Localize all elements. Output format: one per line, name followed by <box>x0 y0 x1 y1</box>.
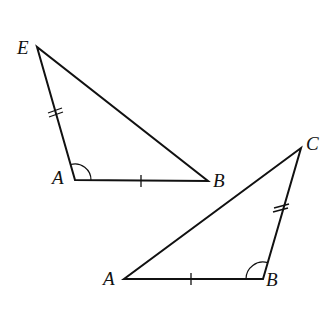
triangle-abc-outline <box>124 148 301 279</box>
triangle-eab <box>37 47 208 181</box>
vertex-label-a-bottom: A <box>103 269 115 288</box>
triangle-abc <box>124 148 301 279</box>
diagram-canvas: E A B C A B <box>0 0 332 314</box>
triangles-figure <box>0 0 332 314</box>
vertex-label-e: E <box>17 38 29 57</box>
double-tick-mark-bc <box>273 204 289 212</box>
vertex-label-b-top: B <box>213 171 225 190</box>
vertex-label-b-bottom: B <box>266 270 278 289</box>
vertex-label-a-top: A <box>52 168 64 187</box>
vertex-label-c: C <box>306 134 319 153</box>
triangle-eab-outline <box>37 47 208 181</box>
